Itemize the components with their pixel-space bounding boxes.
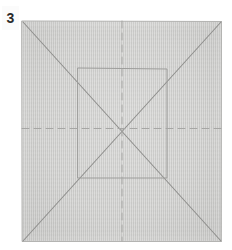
step-number-label: 3 bbox=[2, 6, 19, 30]
square-paper-sheet bbox=[22, 21, 222, 242]
origami-step-figure: 3 bbox=[0, 0, 232, 250]
